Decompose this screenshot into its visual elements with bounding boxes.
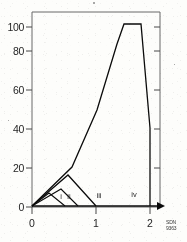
curve-iv [32, 24, 150, 206]
y-tick-label-0: 0 [18, 201, 24, 213]
y-tick-label-80: 80 [13, 45, 25, 57]
x-axis-ticks [32, 207, 150, 214]
chart-figure: 100 80 60 40 20 0 0 1 2 i ii iii iv [0, 0, 187, 242]
curve-label-iii: iii [97, 191, 102, 200]
curve-label-ii: ii [67, 192, 71, 201]
curve-label-iv: iv [131, 190, 137, 199]
x-tick-label-1: 1 [93, 217, 99, 229]
y-axis-labels: 100 80 60 40 20 0 [7, 21, 24, 213]
archive-stamp: SDN 9363 [166, 219, 177, 231]
x-tick-label-2: 2 [147, 217, 153, 229]
archive-stamp-line2: 9363 [166, 225, 177, 231]
x-axis-labels: 0 1 2 [29, 217, 153, 229]
y-axis-ticks [26, 27, 32, 207]
scan-artifacts [8, 2, 175, 121]
y-tick-label-20: 20 [13, 162, 25, 174]
curve-label-i: i [60, 192, 62, 201]
x-axis-baseline [32, 202, 165, 210]
plot-frame [32, 12, 160, 207]
curve-iii [32, 175, 96, 206]
y-tick-label-60: 60 [13, 84, 25, 96]
x-tick-label-0: 0 [29, 217, 35, 229]
y-tick-label-100: 100 [7, 21, 24, 33]
y-axis-ticks-right [154, 27, 160, 168]
y-tick-label-40: 40 [13, 123, 25, 135]
